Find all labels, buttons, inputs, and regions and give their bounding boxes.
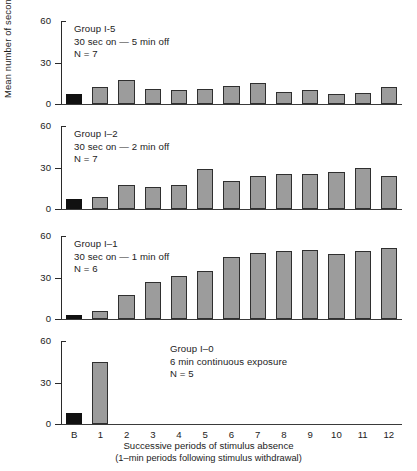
bar-period-10: [328, 94, 344, 104]
y-tick-mark: [55, 63, 61, 64]
y-tick-label: 0: [11, 98, 51, 109]
y-tick-label: 30: [11, 57, 51, 68]
bar-period-6: [223, 86, 239, 104]
y-axis-top-cap: [61, 236, 66, 237]
panel-annotation-line: 30 sec on — 1 min off: [74, 251, 169, 264]
bar-period-10: [328, 254, 344, 319]
bar-period-3: [145, 187, 161, 209]
y-tick-mark: [55, 278, 61, 279]
bar-period-7: [250, 83, 266, 104]
y-tick-label: 0: [11, 203, 51, 214]
bar-period-1: [92, 311, 108, 319]
panel-annotation-line: 6 min continuous exposure: [170, 356, 287, 369]
y-axis-top-cap: [61, 21, 66, 22]
bar-period-5: [197, 271, 213, 319]
bar-baseline: [66, 199, 82, 209]
y-axis-line: [61, 126, 62, 209]
bar-period-5: [197, 89, 213, 104]
y-axis-line: [61, 21, 62, 104]
y-tick-mark: [55, 168, 61, 169]
x-axis-subtitle: (1–min periods following stimulus withdr…: [0, 452, 417, 465]
bar-period-6: [223, 257, 239, 319]
panel-annotation-line: N = 6: [74, 263, 98, 276]
bar-period-8: [276, 251, 292, 319]
bar-period-9: [302, 90, 318, 104]
y-tick-mark: [55, 104, 61, 105]
y-tick-mark: [55, 319, 61, 320]
bar-period-11: [355, 251, 371, 319]
bar-period-8: [276, 92, 292, 104]
bar-period-7: [250, 176, 266, 209]
panel-annotation-line: Group I–2: [74, 128, 118, 141]
bar-period-4: [171, 276, 187, 319]
bar-period-11: [355, 93, 371, 104]
bar-period-12: [381, 248, 397, 319]
x-axis-line: [61, 104, 402, 105]
bar-period-2: [118, 295, 134, 319]
x-axis-line: [61, 319, 402, 320]
y-tick-label: 60: [11, 230, 51, 241]
bar-period-9: [302, 250, 318, 319]
y-tick-label: 60: [11, 120, 51, 131]
bar-period-6: [223, 181, 239, 209]
y-axis-line: [61, 236, 62, 319]
bar-period-11: [355, 168, 371, 210]
y-tick-mark: [55, 383, 61, 384]
y-axis-line: [61, 341, 62, 424]
bar-period-7: [250, 253, 266, 319]
bar-period-1: [92, 197, 108, 209]
bar-period-9: [302, 174, 318, 209]
figure-bar-chart-panels: Mean number of seconds distress crying 0…: [0, 0, 417, 471]
bar-period-1: [92, 87, 108, 104]
panel-annotation-line: Group I–0: [170, 343, 214, 356]
y-tick-label: 30: [11, 272, 51, 283]
bar-period-12: [381, 176, 397, 209]
y-tick-label: 60: [11, 15, 51, 26]
y-tick-label: 60: [11, 335, 51, 346]
y-tick-mark: [55, 424, 61, 425]
y-tick-label: 30: [11, 377, 51, 388]
bar-baseline: [66, 315, 82, 319]
panel-annotation-line: N = 7: [74, 153, 98, 166]
panel-annotation-line: Group I-5: [74, 23, 115, 36]
bar-period-10: [328, 172, 344, 209]
y-tick-mark: [55, 209, 61, 210]
panel-annotation-line: 30 sec on — 2 min off: [74, 141, 169, 154]
bar-baseline: [66, 413, 82, 424]
bar-period-12: [381, 87, 397, 104]
bar-period-8: [276, 174, 292, 209]
y-tick-label: 30: [11, 162, 51, 173]
panel-annotation-line: N = 7: [74, 48, 98, 61]
bar-period-4: [171, 90, 187, 104]
bar-period-5: [197, 169, 213, 209]
x-axis-line: [61, 424, 402, 425]
panel-annotation-line: 30 sec on — 5 min off: [74, 36, 169, 49]
bar-period-4: [171, 185, 187, 209]
bar-period-2: [118, 185, 134, 209]
panel-annotation-line: Group I–1: [74, 238, 118, 251]
bar-period-3: [145, 282, 161, 319]
bar-period-2: [118, 80, 134, 104]
x-axis-title: Successive periods of stimulus absence: [0, 439, 417, 452]
bar-period-3: [145, 89, 161, 104]
y-tick-label: 0: [11, 418, 51, 429]
y-tick-label: 0: [11, 313, 51, 324]
bar-period-1: [92, 362, 108, 424]
panel-annotation-line: N = 5: [170, 368, 194, 381]
y-axis-top-cap: [61, 341, 66, 342]
y-axis-top-cap: [61, 126, 66, 127]
x-axis-line: [61, 209, 402, 210]
bar-baseline: [66, 94, 82, 104]
